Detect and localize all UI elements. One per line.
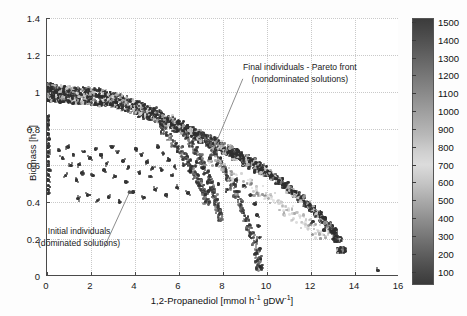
x-axis-tick bbox=[355, 272, 356, 276]
colorbar-tick bbox=[412, 129, 416, 130]
x-axis-title: 1,2-Propanediol [mmol h-1 gDW-1] bbox=[46, 294, 398, 306]
annotation-arrow-head-1 bbox=[209, 153, 213, 157]
colorbar-tick bbox=[412, 22, 416, 23]
annotation-initial-individuals: Initial individuals (dominated solutions… bbox=[38, 226, 120, 249]
x-axis-tick-label: 12 bbox=[305, 280, 316, 291]
colorbar-tick bbox=[412, 182, 416, 183]
annotation-leader-1 bbox=[211, 79, 243, 155]
colorbar-tick bbox=[412, 111, 416, 112]
y-axis-tick-label: 1.4 bbox=[8, 13, 40, 24]
x-axis-tick bbox=[91, 272, 92, 276]
y-axis-tick-label: 0.2 bbox=[8, 234, 40, 245]
y-axis-title-text: Biomass [h bbox=[27, 134, 38, 181]
y-axis-tick-label: 1.2 bbox=[8, 49, 40, 60]
y-axis-tick-label: 0.4 bbox=[8, 197, 40, 208]
colorbar-tick bbox=[412, 272, 416, 273]
x-axis-tick-label: 4 bbox=[131, 280, 136, 291]
colorbar-tick bbox=[412, 218, 416, 219]
colorbar-tick-label: 700 bbox=[438, 159, 454, 170]
x-axis-tick-label: 14 bbox=[349, 280, 360, 291]
y-axis-tick bbox=[46, 202, 50, 203]
colorbar-tick-label: 1200 bbox=[438, 70, 459, 81]
x-axis-tick bbox=[223, 272, 224, 276]
y-axis-tick bbox=[46, 18, 50, 19]
annotation-arrow-head-2 bbox=[128, 190, 132, 194]
annotation-initial-line-2: (dominated solutions) bbox=[38, 238, 120, 250]
colorbar-tick bbox=[412, 75, 416, 76]
colorbar-tick-label: 1500 bbox=[438, 17, 459, 28]
y-axis-tick bbox=[46, 55, 50, 56]
colorbar-tick bbox=[412, 147, 416, 148]
colorbar-tick-label: 100 bbox=[438, 266, 454, 277]
colorbar-tick-label: 900 bbox=[438, 123, 454, 134]
colorbar-tick bbox=[412, 93, 416, 94]
colorbar-tick-label: 1400 bbox=[438, 34, 459, 45]
y-axis-tick-label: 1 bbox=[8, 86, 40, 97]
x-axis-tick bbox=[311, 272, 312, 276]
colorbar-tick-label: 1300 bbox=[438, 52, 459, 63]
x-axis-tick-label: 2 bbox=[87, 280, 92, 291]
y-axis-tick-label: 0 bbox=[8, 271, 40, 282]
y-axis-tick bbox=[46, 129, 50, 130]
colorbar-tick bbox=[412, 254, 416, 255]
colorbar-tick bbox=[412, 200, 416, 201]
y-axis-title: Biomass [h-1] bbox=[26, 93, 38, 213]
x-axis-tick-label: 6 bbox=[175, 280, 180, 291]
colorbar-tick-label: 600 bbox=[438, 177, 454, 188]
x-axis-tick-label: 10 bbox=[261, 280, 272, 291]
colorbar-tick bbox=[412, 236, 416, 237]
x-axis-tick bbox=[135, 272, 136, 276]
annotation-final-individuals: Final individuals - Pareto front (nondom… bbox=[243, 62, 357, 85]
x-axis-tick bbox=[179, 272, 180, 276]
x-axis-tick-label: 16 bbox=[393, 280, 404, 291]
colorbar-tick-label: 200 bbox=[438, 248, 454, 259]
annotation-initial-line-1: Initial individuals bbox=[38, 226, 120, 238]
y-axis-tick-label: 0.8 bbox=[8, 123, 40, 134]
x-axis-tick bbox=[47, 272, 48, 276]
figure-canvas: Biomass [h-1] 0246810121416 00.20.40.60.… bbox=[0, 0, 467, 316]
colorbar-tick-label: 500 bbox=[438, 195, 454, 206]
x-axis-tick-label: 8 bbox=[219, 280, 224, 291]
y-axis-tick bbox=[46, 165, 50, 166]
x-axis-title-bracket: ] bbox=[291, 295, 294, 306]
x-axis-title-text: 1,2-Propanediol [mmol h bbox=[151, 295, 255, 306]
annotation-final-line-2: (nondominated solutions) bbox=[243, 74, 357, 86]
colorbar-tick-label: 300 bbox=[438, 230, 454, 241]
x-axis-tick bbox=[267, 272, 268, 276]
colorbar-tick-label: 400 bbox=[438, 213, 454, 224]
x-axis-tick-label: 0 bbox=[43, 280, 48, 291]
colorbar-tick-label: 1000 bbox=[438, 106, 459, 117]
colorbar-tick bbox=[412, 40, 416, 41]
colorbar-tick bbox=[412, 165, 416, 166]
x-axis-title-mid: gDW bbox=[261, 295, 285, 306]
colorbar-tick-label: 800 bbox=[438, 141, 454, 152]
y-axis-tick bbox=[46, 92, 50, 93]
annotation-final-line-1: Final individuals - Pareto front bbox=[243, 62, 357, 74]
colorbar-tick bbox=[412, 58, 416, 59]
y-axis-tick-label: 0.6 bbox=[8, 160, 40, 171]
colorbar-tick-label: 1100 bbox=[438, 88, 458, 99]
